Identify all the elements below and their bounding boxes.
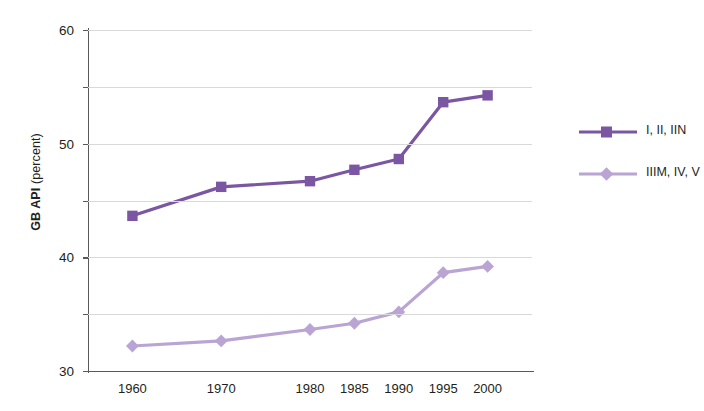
data-point [304, 323, 317, 336]
gridline-y-50 [88, 87, 532, 88]
series-line-0 [132, 95, 487, 215]
y-tick-10: 10 [83, 314, 88, 315]
gridline-y-60 [88, 30, 532, 31]
legend: I, II, IIN IIIM, IV, V [578, 118, 704, 202]
x-tick-label-1995: 1995 [429, 381, 458, 396]
legend-item-0[interactable]: I, II, IIN [578, 118, 704, 160]
data-point [305, 176, 315, 186]
data-point [482, 90, 492, 100]
gridline-y-20 [88, 257, 532, 258]
data-point [438, 97, 448, 107]
y-axis-title-regular: (percent) [29, 133, 43, 188]
data-point [127, 211, 137, 221]
gridline-y-0 [88, 371, 532, 372]
x-tick-label-1960: 1960 [118, 381, 147, 396]
plot-area: 0102030405060 [88, 30, 532, 371]
data-point [481, 260, 494, 273]
x-tick-label-1970: 1970 [207, 381, 236, 396]
y-tick-20: 20 [83, 257, 88, 258]
y-tick-30: 30 [83, 201, 88, 202]
legend-item-1[interactable]: IIIM, IV, V [578, 160, 704, 202]
y-tick-60: 60 [83, 30, 88, 31]
x-tick-label-1980: 1980 [296, 381, 325, 396]
x-tick-label-2000: 2000 [473, 381, 502, 396]
chart-container: GB API (percent) 0102030405060 196019701… [0, 0, 704, 411]
gridline-y-40 [88, 144, 532, 145]
legend-label-0: I, II, IIN [646, 123, 686, 137]
x-tick-label-1985: 1985 [340, 381, 369, 396]
y-tick-40: 40 [83, 144, 88, 145]
data-point [394, 154, 404, 164]
y-axis-title: GB API (percent) [29, 102, 43, 262]
data-point [216, 182, 226, 192]
y-tick-label-40: 40 [59, 250, 74, 265]
y-tick-label-60: 60 [59, 23, 74, 38]
data-point [126, 340, 139, 353]
y-tick-50: 50 [83, 87, 88, 88]
gridline-y-30 [88, 201, 532, 202]
data-point [349, 165, 359, 175]
y-tick-0: 0 [83, 371, 88, 372]
x-tick-label-1990: 1990 [384, 381, 413, 396]
legend-label-1: IIIM, IV, V [646, 165, 700, 179]
gridline-y-10 [88, 314, 532, 315]
y-axis-title-bold: GB API [29, 188, 43, 231]
y-tick-label-50: 50 [59, 136, 74, 151]
data-point [215, 334, 228, 347]
legend-swatch-square [578, 124, 638, 140]
legend-swatch-diamond [578, 166, 638, 182]
data-point [348, 317, 361, 330]
y-tick-label-30: 30 [59, 364, 74, 379]
